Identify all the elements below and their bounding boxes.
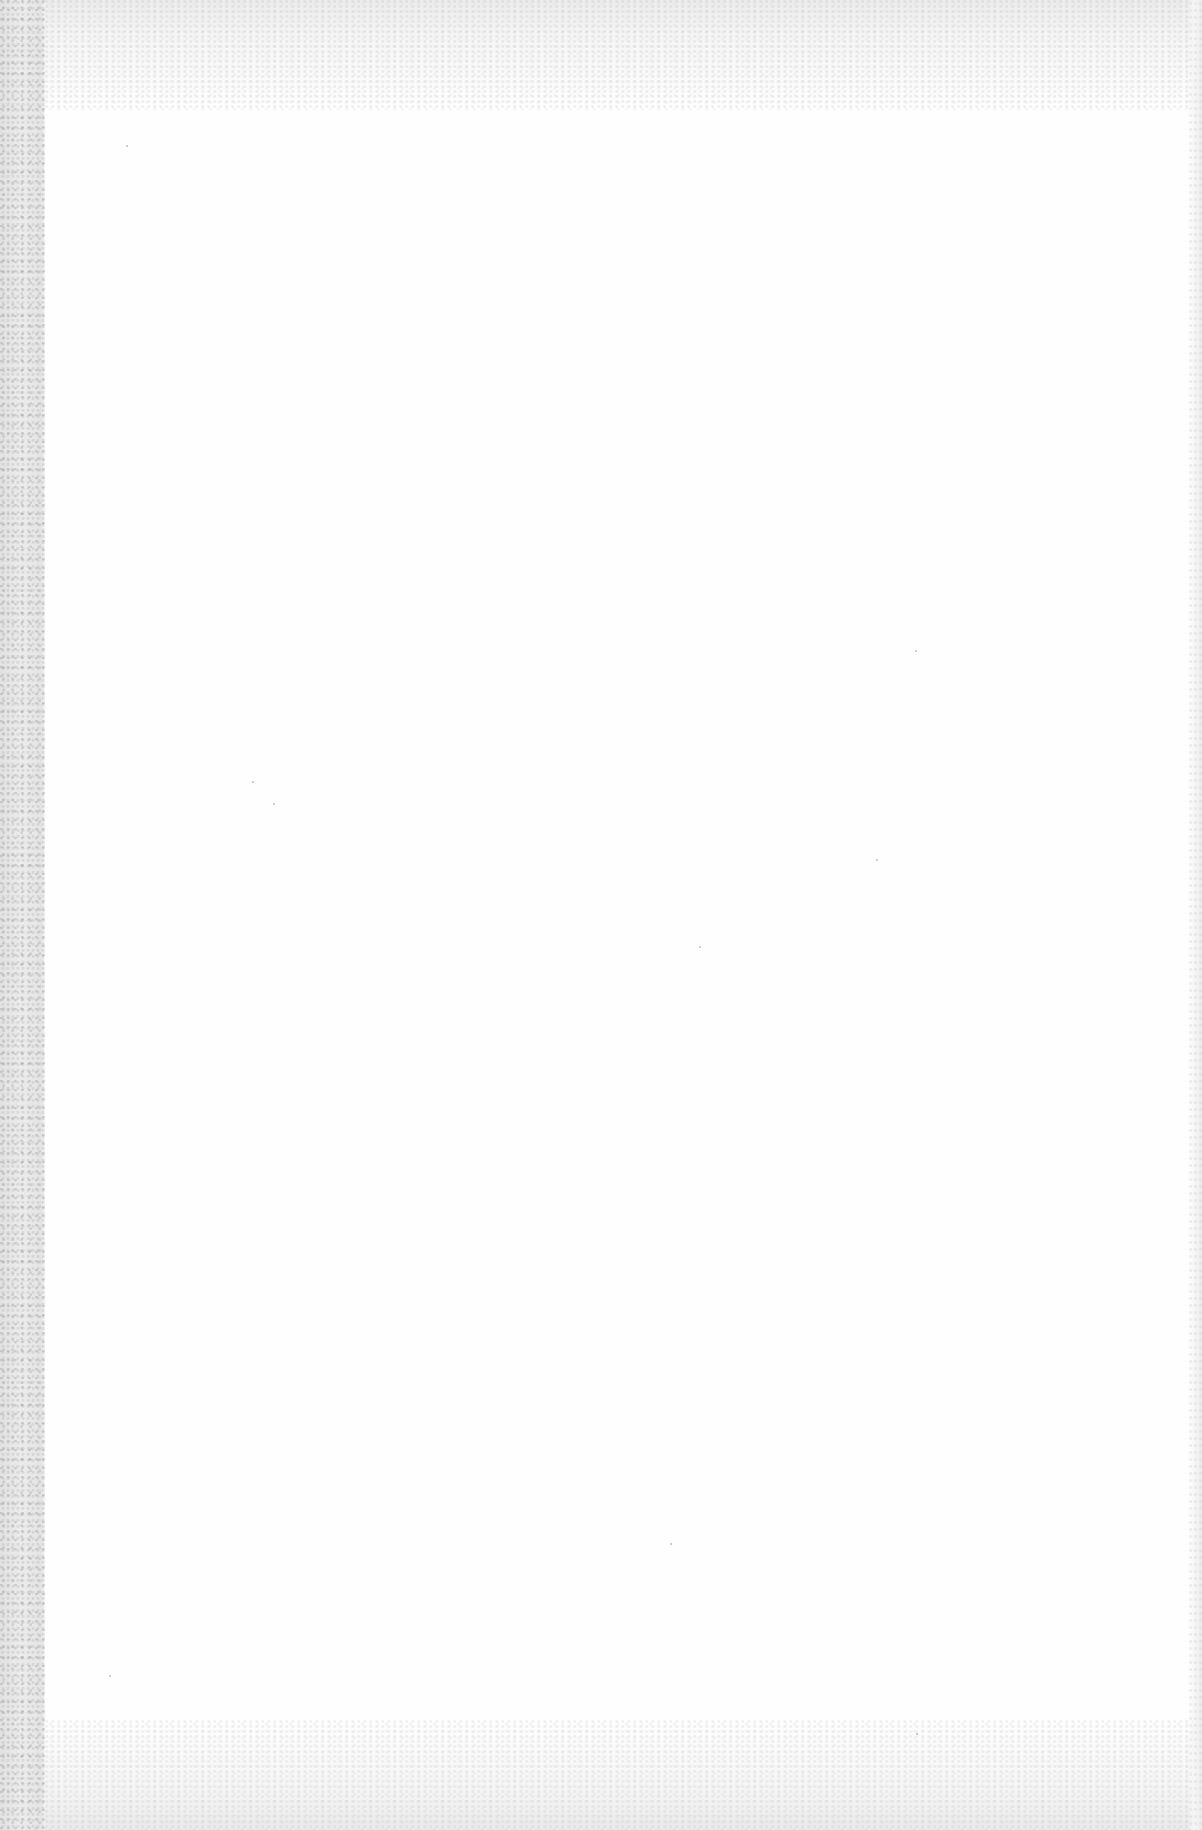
top-scan-noise (45, 0, 1202, 110)
page-body (80, 140, 1142, 1690)
binding-gutter-shadow (0, 0, 45, 1830)
dust-speck (252, 781, 254, 783)
right-edge-shadow (1188, 0, 1202, 1830)
dust-speck (109, 1675, 111, 1677)
dust-speck (273, 803, 275, 805)
dust-speck (915, 650, 917, 652)
dust-speck (670, 1543, 672, 1545)
bottom-scan-noise (45, 1720, 1202, 1830)
dust-speck (126, 145, 128, 147)
blank-scanned-page (0, 0, 1202, 1830)
dust-speck (876, 859, 878, 861)
dust-speck (699, 946, 701, 948)
dust-speck (916, 1733, 918, 1735)
